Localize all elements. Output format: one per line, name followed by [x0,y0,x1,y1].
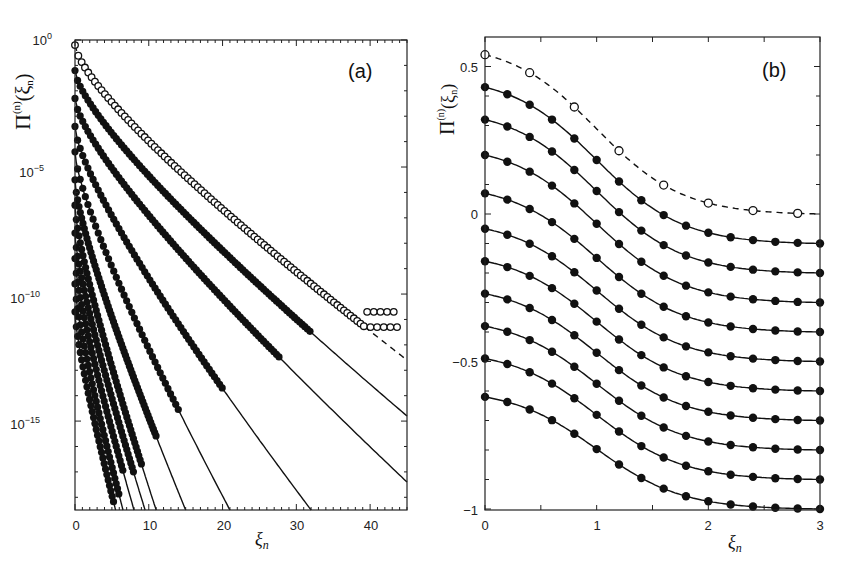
filled-circle-marker [75,287,82,294]
filled-circle-marker [548,284,556,292]
filled-circle-marker [85,390,92,397]
filled-circle-marker [87,402,94,409]
solid-fit-line [485,87,820,243]
filled-circle-marker [110,498,117,505]
open-circle-marker [377,309,384,316]
filled-circle-marker [105,255,112,262]
filled-circle-marker [682,221,690,229]
solid-fit-line [485,326,820,450]
filled-circle-marker [548,218,556,226]
filled-circle-marker [659,241,667,249]
filled-circle-marker [275,353,282,360]
panel-b-curves [481,51,824,514]
filled-circle-marker [570,166,578,174]
filled-circle-marker [793,445,801,453]
filled-circle-marker [525,405,533,413]
filled-circle-marker [749,265,757,273]
filled-circle-marker [81,370,88,377]
open-circle-marker [615,147,623,155]
open-circle-marker [704,199,712,207]
filled-circle-marker [73,270,80,277]
filled-circle-marker [175,406,182,413]
filled-circle-marker [659,333,667,341]
filled-circle-marker [749,414,757,422]
filled-circle-marker [95,229,102,236]
filled-circle-marker [704,258,712,266]
filled-circle-marker [682,402,690,410]
panel-a-xtick-2: 20 [217,518,231,533]
filled-circle-marker [637,321,645,329]
filled-circle-marker [615,397,623,405]
filled-circle-marker [548,115,556,123]
filled-circle-marker [615,460,623,468]
filled-circle-marker [306,328,313,335]
filled-circle-marker [793,239,801,247]
filled-circle-marker [73,296,80,303]
panel-a-xlabel: ξn [255,529,269,552]
panel-b-xlabel: ξn [728,532,742,555]
filled-circle-marker [726,441,734,449]
filled-circle-marker [503,360,511,368]
panel-b-ylabel: Π(n)(ξn) [435,84,459,135]
filled-circle-marker [89,408,96,415]
svg-text:Π(n)(ξn): Π(n)(ξn) [10,74,35,130]
filled-circle-marker [615,427,623,435]
filled-circle-marker [503,90,511,98]
filled-circle-marker [592,219,600,227]
filled-circle-marker [771,238,779,246]
filled-circle-marker [682,312,690,320]
filled-circle-marker [682,372,690,380]
open-circle-marker [367,324,374,331]
filled-circle-marker [86,396,93,403]
filled-circle-marker [548,147,556,155]
filled-circle-marker [570,268,578,276]
filled-circle-marker [749,325,757,333]
filled-circle-marker [82,377,89,384]
filled-circle-marker [704,288,712,296]
panel-a-xtick-3: 30 [290,518,304,533]
filled-circle-marker [659,453,667,461]
figure: 100 10−5 10−10 10−15 0 10 20 30 40 ξn Π(… [0,0,853,573]
filled-circle-marker [749,295,757,303]
filled-circle-marker [503,263,511,271]
filled-circle-marker [749,384,757,392]
open-circle-marker [526,69,534,77]
filled-circle-marker [726,382,734,390]
open-circle-marker [394,324,401,331]
filled-circle-marker [615,335,623,343]
filled-circle-marker [637,289,645,297]
filled-circle-marker [793,416,801,424]
filled-circle-marker [704,348,712,356]
filled-circle-marker [73,216,80,223]
filled-circle-marker [615,177,623,185]
filled-circle-marker [771,356,779,364]
filled-circle-marker [704,497,712,505]
panel-b-ytick-m1: −1 [463,503,478,518]
open-circle-marker [387,324,394,331]
filled-circle-marker [682,342,690,350]
filled-circle-marker [503,157,511,165]
filled-circle-marker [79,363,86,370]
filled-circle-marker [570,363,578,371]
filled-circle-marker [659,423,667,431]
filled-circle-marker [793,357,801,365]
filled-circle-marker [682,251,690,259]
filled-circle-marker [73,244,80,251]
filled-circle-marker [97,236,104,243]
filled-circle-marker [592,286,600,294]
filled-circle-marker [592,254,600,262]
filled-circle-marker [637,258,645,266]
filled-circle-marker [570,235,578,243]
filled-circle-marker [525,167,533,175]
panel-b-linear-plot: 0.5 0 −0.5 −1 0 1 2 3 ξn Π(n)(ξn) (b) [435,37,824,555]
filled-circle-marker [90,414,97,421]
filled-circle-marker [548,416,556,424]
filled-circle-marker [615,240,623,248]
filled-circle-marker [503,231,511,239]
filled-circle-marker [793,298,801,306]
filled-circle-marker [659,484,667,492]
open-circle-marker [364,309,371,316]
filled-circle-marker [130,468,137,475]
filled-circle-marker [749,354,757,362]
open-circle-marker [371,309,378,316]
